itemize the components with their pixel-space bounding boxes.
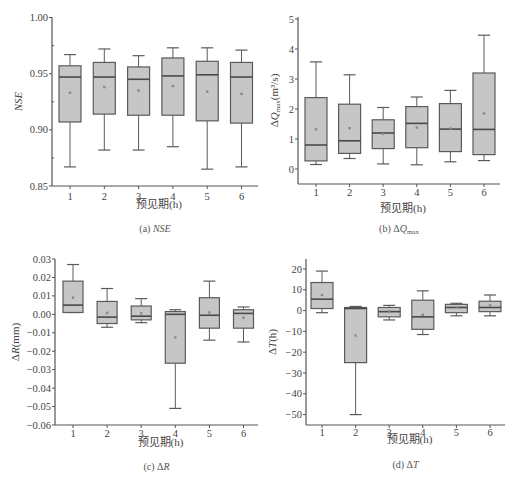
y-tick-label: 0.01 [33, 290, 51, 301]
unit: (mm) [9, 323, 22, 348]
y-tick-label: 0.95 [30, 68, 48, 79]
y-tick-label: 0.00 [33, 309, 51, 320]
x-tick-label: 6 [241, 428, 246, 439]
mean-marker [388, 310, 390, 312]
var: T [413, 459, 420, 470]
y-tick-label: −0.06 [27, 420, 51, 431]
box-6 [234, 307, 254, 342]
y-tick-label: −0.05 [27, 401, 51, 412]
y-tick-label: −30 [286, 368, 302, 379]
y-tick-label: 20 [292, 264, 303, 275]
x-axis-label: 预见期(h) [387, 433, 433, 446]
x-tick-label: 5 [454, 427, 459, 438]
mean-marker [315, 128, 317, 130]
box-3 [128, 56, 150, 150]
mean-marker [172, 85, 174, 87]
mean-marker [137, 89, 139, 91]
y-axis-label-var: NSE [12, 91, 24, 112]
y-tick-label: −40 [286, 388, 302, 399]
figure-boxplots: 0.850.900.951.00123456预见期(h)NSE(a) NSE01… [0, 0, 515, 485]
y-tick-label: 2 [289, 104, 294, 115]
y-tick-label: 0.03 [33, 254, 51, 265]
y-tick-label: −0.02 [27, 346, 51, 357]
subscript: max [407, 228, 420, 236]
x-tick-label: 1 [70, 428, 75, 439]
mean-marker [455, 306, 457, 308]
var: R [162, 461, 169, 472]
mean-marker [422, 314, 424, 316]
panel-d-dt: −50−40−30−20−1001020123456预见期(h)ΔT(h)(d)… [266, 259, 505, 471]
x-axis-label: 预见期(h) [138, 436, 184, 449]
panel-caption: (b) ΔQmax [379, 223, 419, 236]
box-6 [479, 295, 501, 316]
panel-caption: (c) ΔR [143, 461, 169, 473]
caption-var: NSE [152, 223, 171, 234]
y-tick-label: 0 [297, 305, 302, 316]
box-3 [378, 305, 400, 320]
x-axis-label: 预见期(h) [136, 198, 182, 211]
x-tick-label: 5 [205, 191, 210, 202]
box-5 [196, 48, 218, 169]
x-tick-label: 1 [319, 427, 324, 438]
mean-marker [242, 316, 244, 318]
mean-marker [140, 312, 142, 314]
box-6 [473, 35, 495, 160]
mean-marker [348, 127, 350, 129]
unit: (m³/s) [268, 73, 281, 100]
unit: (h) [266, 329, 279, 342]
mean-marker [69, 92, 71, 94]
panel-c-dr: −0.06−0.05−0.04−0.03−0.02−0.010.000.010.… [9, 254, 258, 474]
x-tick-label: 2 [102, 191, 107, 202]
y-tick-label: 5 [289, 14, 294, 25]
box-1 [63, 265, 83, 313]
y-axis-label: NSE [12, 91, 24, 112]
x-tick-label: 1 [67, 191, 72, 202]
mean-marker [206, 90, 208, 92]
y-tick-label: −0.03 [27, 364, 51, 375]
panel-b-dqmax: 012345123456预见期(h)ΔQmax(m³/s)(b) ΔQmax [268, 14, 500, 237]
y-tick-label: −10 [286, 326, 302, 337]
x-tick-label: 1 [313, 187, 318, 198]
mean-marker [103, 86, 105, 88]
delta: Δ [9, 354, 21, 361]
x-tick-label: 5 [448, 187, 453, 198]
box-1 [59, 55, 81, 167]
mean-marker [449, 127, 451, 129]
box-5 [439, 90, 461, 161]
box-4 [406, 97, 428, 165]
y-axis-label: ΔQmax(m³/s) [268, 73, 282, 127]
box-iqr [234, 310, 254, 328]
y-tick-label: 0.02 [33, 272, 51, 283]
y-tick-label: −0.01 [27, 327, 51, 338]
y-tick-label: 0 [289, 164, 294, 175]
x-tick-label: 5 [207, 428, 212, 439]
mean-marker [72, 297, 74, 299]
y-tick-label: 1.00 [30, 12, 48, 23]
panel-caption: (a) NSE [139, 223, 170, 235]
mean-marker [382, 133, 384, 135]
y-tick-label: 4 [289, 44, 295, 55]
y-tick-label: 0.85 [30, 181, 48, 192]
box-3 [131, 299, 151, 323]
box-2 [345, 306, 367, 414]
mean-marker [354, 334, 356, 336]
mean-marker [489, 304, 491, 306]
box-2 [93, 49, 115, 150]
x-tick-label: 6 [239, 191, 244, 202]
x-tick-label: 2 [347, 187, 352, 198]
delta: Δ [266, 348, 278, 355]
x-axis-label: 预见期(h) [380, 202, 426, 215]
box-5 [199, 281, 219, 340]
panel-a-nse: 0.850.900.951.00123456预见期(h)NSE(a) NSE [12, 12, 258, 235]
y-tick-label: 0.90 [30, 124, 48, 135]
mean-marker [321, 294, 323, 296]
box-5 [445, 303, 467, 315]
panel-caption: (d) ΔT [392, 459, 420, 471]
x-tick-label: 4 [414, 187, 420, 198]
box-1 [311, 271, 333, 313]
x-tick-label: 6 [487, 427, 492, 438]
mean-marker [240, 93, 242, 95]
box-2 [97, 289, 117, 328]
x-tick-label: 6 [481, 187, 486, 198]
caption-prefix: (b) [379, 223, 393, 235]
